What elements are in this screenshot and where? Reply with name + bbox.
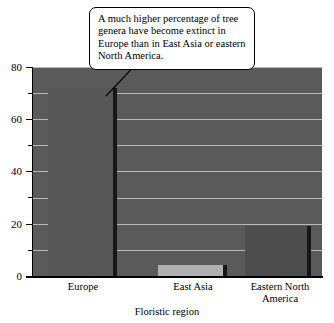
x-tick-label-east-asia: East Asia xyxy=(158,281,228,293)
y-tick-minor-50 xyxy=(28,145,33,146)
x-axis-line xyxy=(26,276,323,278)
y-tick-minor-30 xyxy=(28,197,33,198)
bar-eastern-north-america xyxy=(245,226,311,276)
x-tick-label-eastern-north-america: Eastern North America xyxy=(243,281,317,305)
y-tick-0 xyxy=(26,276,33,277)
y-tick-minor-10 xyxy=(28,250,33,251)
y-tick-label-60: 60 xyxy=(0,114,22,125)
y-axis-line xyxy=(32,67,33,277)
bar-east-asia xyxy=(158,265,227,276)
callout-annotation-box: A much higher percentage of tree genera … xyxy=(89,7,255,70)
callout-annotation-text: A much higher percentage of tree genera … xyxy=(98,13,247,63)
bar-chart-figure: 80 60 40 20 0 Europe East Asia Eastern N… xyxy=(0,0,334,323)
bar-europe-body xyxy=(48,88,113,276)
plot-area xyxy=(33,67,322,276)
bar-europe-shadow xyxy=(113,88,117,276)
x-axis-title: Floristic region xyxy=(0,306,334,317)
bar-east-asia-shadow xyxy=(223,265,227,276)
bar-eastern-north-america-shadow xyxy=(307,226,311,276)
y-tick-label-80: 80 xyxy=(0,62,22,73)
y-tick-minor-70 xyxy=(28,93,33,94)
y-tick-80 xyxy=(26,67,33,68)
x-tick-label-europe: Europe xyxy=(48,281,118,293)
y-tick-label-20: 20 xyxy=(0,219,22,230)
y-tick-60 xyxy=(26,119,33,120)
y-tick-20 xyxy=(26,224,33,225)
y-tick-40 xyxy=(26,171,33,172)
bar-europe xyxy=(48,88,117,276)
bar-east-asia-body xyxy=(158,265,223,276)
y-tick-label-0: 0 xyxy=(0,271,22,282)
y-tick-label-40: 40 xyxy=(0,166,22,177)
bar-eastern-north-america-body xyxy=(245,226,307,276)
